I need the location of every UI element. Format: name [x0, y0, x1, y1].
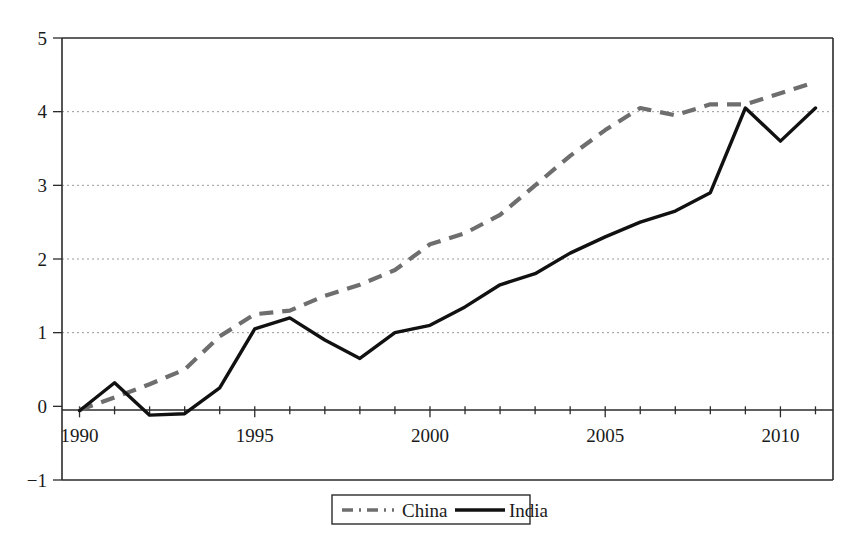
y-tick-label-4: 4	[38, 101, 48, 122]
series-line-china	[80, 82, 816, 410]
y-tick-label-5: 5	[38, 28, 48, 49]
chart-legend: China India	[332, 495, 549, 524]
line-chart: 543210−1 19901995200020052010 China Indi…	[0, 0, 860, 556]
chart-container: 543210−1 19901995200020052010 China Indi…	[0, 0, 860, 556]
y-tick-label-0: 0	[38, 396, 48, 417]
y-axis-ticks	[53, 38, 62, 480]
x-axis-tick-labels: 19901995200020052010	[61, 425, 800, 446]
x-tick-label-1990: 1990	[61, 425, 99, 446]
grid-lines	[62, 112, 833, 333]
legend-label-china: China	[402, 500, 448, 521]
y-tick-label-2: 2	[38, 249, 48, 270]
x-tick-label-2005: 2005	[586, 425, 624, 446]
series-line-india	[80, 108, 816, 415]
y-tick-label-3: 3	[38, 175, 48, 196]
legend-label-india: India	[509, 500, 549, 521]
y-axis-tick-labels: 543210−1	[27, 28, 48, 491]
x-tick-label-1995: 1995	[236, 425, 274, 446]
x-tick-label-2000: 2000	[411, 425, 449, 446]
y-tick-label--1: −1	[27, 470, 47, 491]
x-tick-label-2010: 2010	[761, 425, 799, 446]
y-tick-label-1: 1	[38, 322, 48, 343]
